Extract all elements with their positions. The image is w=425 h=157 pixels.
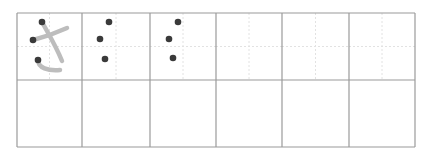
grid-lines <box>17 13 415 147</box>
stroke-start-dot <box>97 36 104 43</box>
stroke-2-diagonal <box>42 22 62 61</box>
stroke-start-dot <box>170 55 177 62</box>
handwriting-practice-sheet <box>0 0 425 157</box>
stroke-start-dot <box>166 36 173 43</box>
stroke-start-dot <box>30 37 37 44</box>
stroke-start-dot <box>102 56 109 63</box>
stroke-start-dot <box>39 19 46 26</box>
stroke-start-dot <box>106 19 113 26</box>
stroke-start-dot <box>175 19 182 26</box>
practice-grid <box>0 0 425 157</box>
stroke-start-dot <box>35 57 42 64</box>
